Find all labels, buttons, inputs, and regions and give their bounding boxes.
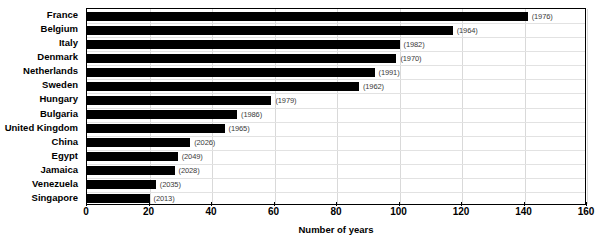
bar-row: (1964) <box>87 23 585 37</box>
x-tick-mark <box>149 202 150 206</box>
x-tick-mark <box>336 202 337 206</box>
bar-row: (2049) <box>87 150 585 164</box>
x-tick-mark <box>524 202 525 206</box>
bar-row: (1962) <box>87 79 585 93</box>
x-tick-label: 160 <box>578 206 595 217</box>
bar-value-label: (1976) <box>532 12 553 21</box>
y-axis-label: Sweden <box>42 80 78 90</box>
bar-row: (2028) <box>87 164 585 178</box>
bar-value-label: (2049) <box>182 152 203 161</box>
bar-value-label: (2026) <box>194 138 215 147</box>
x-tick-mark <box>399 202 400 206</box>
bar-value-label: (1986) <box>241 110 262 119</box>
bar <box>87 152 178 161</box>
x-tick-mark <box>586 202 587 206</box>
bar-row: (1991) <box>87 65 585 79</box>
bar-row: (1982) <box>87 37 585 51</box>
bar-row: (2035) <box>87 178 585 192</box>
bar <box>87 138 190 147</box>
x-tick-label: 120 <box>453 206 470 217</box>
bar <box>87 110 237 119</box>
bar <box>87 194 150 203</box>
bar-value-label: (1962) <box>363 82 384 91</box>
bar-value-label: (1965) <box>229 124 250 133</box>
bar <box>87 54 396 63</box>
bar <box>87 166 175 175</box>
x-tick-mark <box>211 202 212 206</box>
x-tick-label: 20 <box>143 206 154 217</box>
x-axis-title: Number of years <box>86 224 586 235</box>
y-axis-label: Singapore <box>32 193 78 203</box>
y-axis-label: Denmark <box>37 52 78 62</box>
bar <box>87 12 528 21</box>
bar-value-label: (1970) <box>400 54 421 63</box>
bar-row: (1976) <box>87 9 585 23</box>
y-axis-label: Jamaica <box>40 165 78 175</box>
y-axis-category-labels: FranceBelgiumItalyDenmarkNetherlandsSwed… <box>0 8 82 205</box>
plot-area: (1976)(1964)(1982)(1970)(1991)(1962)(197… <box>86 8 586 205</box>
bar <box>87 82 359 91</box>
bar-chart: FranceBelgiumItalyDenmarkNetherlandsSwed… <box>0 0 611 247</box>
y-axis-label: Bulgaria <box>40 109 78 119</box>
y-axis-label: Venezuela <box>32 179 78 189</box>
bar-value-label: (1979) <box>275 96 296 105</box>
y-axis-label: China <box>52 137 78 147</box>
bar <box>87 96 271 105</box>
bar <box>87 180 156 189</box>
bar-value-label: (2013) <box>154 194 175 203</box>
bar <box>87 40 400 49</box>
bar <box>87 68 375 77</box>
gridline-vertical <box>587 9 588 204</box>
x-tick-mark <box>461 202 462 206</box>
x-tick-label: 60 <box>268 206 279 217</box>
y-axis-label: France <box>47 10 78 20</box>
bar-row: (1979) <box>87 93 585 107</box>
y-axis-label: Belgium <box>41 24 78 34</box>
bar-value-label: (1964) <box>457 26 478 35</box>
x-tick-mark <box>274 202 275 206</box>
x-tick-mark <box>86 202 87 206</box>
y-axis-label: Egypt <box>52 151 78 161</box>
bar-row: (1970) <box>87 51 585 65</box>
x-tick-label: 140 <box>515 206 532 217</box>
y-axis-label: Italy <box>59 38 78 48</box>
x-tick-label: 100 <box>390 206 407 217</box>
bar-value-label: (2035) <box>160 180 181 189</box>
bar <box>87 26 453 35</box>
y-axis-label: Netherlands <box>23 66 78 76</box>
x-axis-ticks: 020406080100120140160 <box>86 206 586 224</box>
bar-value-label: (1991) <box>379 68 400 77</box>
y-axis-label: United Kingdom <box>5 123 78 133</box>
bar-row: (1965) <box>87 122 585 136</box>
bar-row: (1986) <box>87 108 585 122</box>
bar-row: (2026) <box>87 136 585 150</box>
x-tick-label: 0 <box>83 206 89 217</box>
x-tick-label: 40 <box>205 206 216 217</box>
bar-value-label: (1982) <box>404 40 425 49</box>
x-tick-label: 80 <box>330 206 341 217</box>
bar <box>87 124 225 133</box>
bar-rows: (1976)(1964)(1982)(1970)(1991)(1962)(197… <box>87 9 585 204</box>
bar-value-label: (2028) <box>179 166 200 175</box>
y-axis-label: Hungary <box>39 94 78 104</box>
